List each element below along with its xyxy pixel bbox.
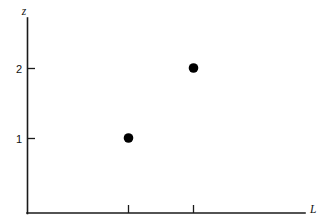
x-axis-title: L: [309, 203, 316, 215]
data-point-2: [189, 63, 199, 73]
data-point-1: [124, 133, 134, 143]
plot-canvas: 2 1 z L: [0, 0, 326, 224]
y-tick-label-2: 2: [16, 63, 22, 75]
plot-background: [0, 0, 326, 224]
y-tick-label-1: 1: [16, 133, 22, 145]
scatter-plot-figure: 2 1 z L: [0, 0, 326, 224]
y-axis-title: z: [21, 5, 27, 17]
